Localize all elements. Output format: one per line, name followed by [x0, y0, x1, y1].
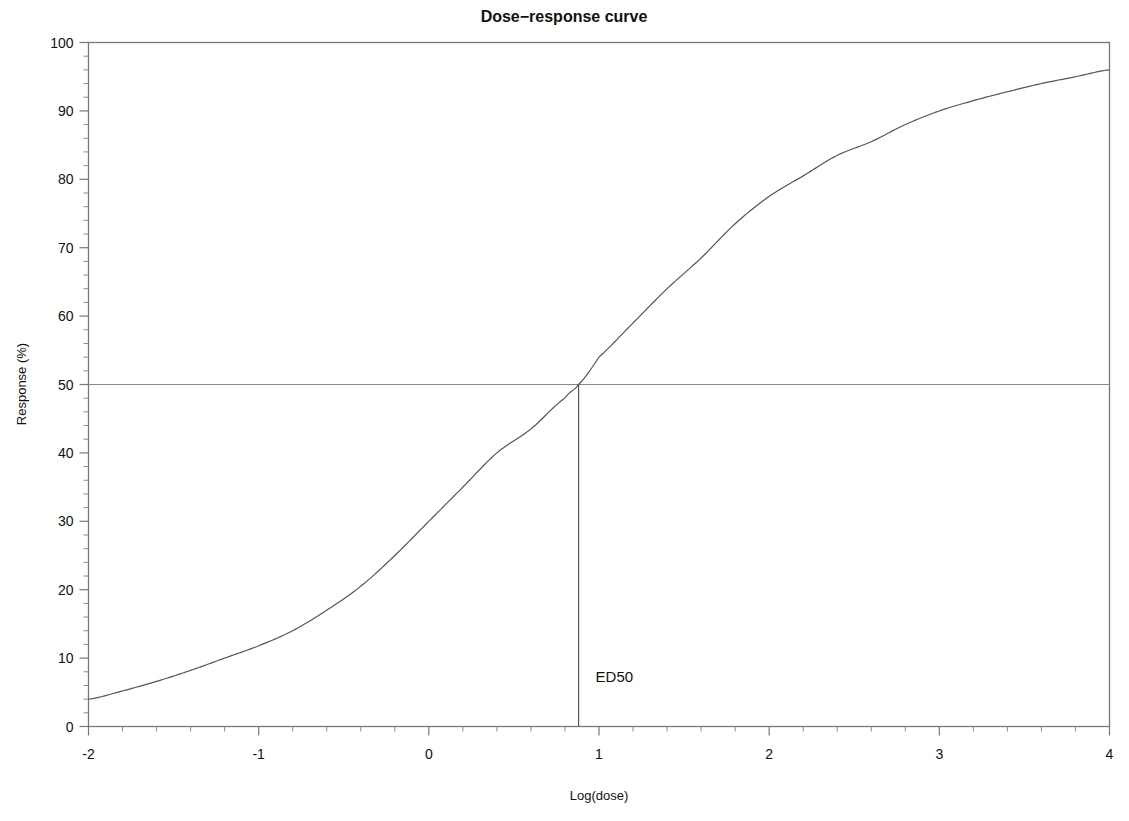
y-tick-label: 40	[58, 445, 74, 461]
y-tick-label: 80	[58, 171, 74, 187]
y-tick-label: 20	[58, 582, 74, 598]
y-tick-label: 50	[58, 377, 74, 393]
y-tick-label: 60	[58, 308, 74, 324]
y-tick-label: 0	[66, 719, 74, 735]
chart-title: Dose−response curve	[481, 8, 648, 25]
dose-response-chart: Dose−response curve -2-101234 0102030405…	[0, 0, 1129, 821]
y-axis-label: Response (%)	[14, 343, 29, 425]
chart-canvas: Dose−response curve -2-101234 0102030405…	[0, 0, 1129, 821]
x-tick-label: 4	[1106, 746, 1114, 762]
y-tick-label: 100	[50, 35, 74, 51]
x-tick-label: -1	[252, 746, 265, 762]
x-tick-label: -2	[82, 746, 95, 762]
x-tick-label: 3	[935, 746, 943, 762]
chart-background	[0, 0, 1129, 821]
y-tick-label: 70	[58, 240, 74, 256]
x-tick-label: 0	[425, 746, 433, 762]
y-tick-label: 90	[58, 103, 74, 119]
x-tick-label: 1	[595, 746, 603, 762]
x-axis-label: Log(dose)	[570, 788, 629, 803]
y-tick-label: 10	[58, 650, 74, 666]
ed50-label: ED50	[596, 668, 634, 685]
x-tick-label: 2	[765, 746, 773, 762]
y-tick-label: 30	[58, 513, 74, 529]
